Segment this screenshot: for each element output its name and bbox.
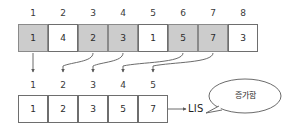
- lis-cell-1[interactable]: 1: [18, 95, 48, 123]
- callout-bubble-tail: [206, 106, 222, 113]
- mid-index-3: 3: [78, 80, 108, 90]
- lis-cell-5[interactable]: 7: [138, 95, 168, 123]
- map-arrow-7-to-5: [153, 53, 213, 72]
- lis-cell-4[interactable]: 5: [108, 95, 138, 123]
- top-index-1: 1: [18, 8, 48, 18]
- input-cell-8[interactable]: 3: [228, 24, 258, 52]
- lis-result-label: LIS: [188, 103, 203, 114]
- input-cell-5[interactable]: 1: [138, 24, 168, 52]
- lis-cell-3[interactable]: 3: [78, 95, 108, 123]
- mid-index-5: 5: [138, 80, 168, 90]
- top-index-8: 8: [228, 8, 258, 18]
- input-cell-6[interactable]: 5: [168, 24, 198, 52]
- top-index-7: 7: [198, 8, 228, 18]
- map-arrow-6-to-4: [123, 53, 183, 72]
- top-index-2: 2: [48, 8, 78, 18]
- map-arrow-4-to-3: [93, 53, 123, 72]
- mid-index-1: 1: [18, 80, 48, 90]
- input-cell-3[interactable]: 2: [78, 24, 108, 52]
- input-cell-7[interactable]: 7: [198, 24, 228, 52]
- lis-diagram: 1 2 3 4 5 6 7 8 1 4 2 3 1 5 7 3 1 2 3 4 …: [0, 0, 290, 135]
- map-arrow-3-to-2: [63, 53, 93, 72]
- top-index-3: 3: [78, 8, 108, 18]
- mid-index-2: 2: [48, 80, 78, 90]
- top-index-5: 5: [138, 8, 168, 18]
- mid-index-4: 4: [108, 80, 138, 90]
- top-index-6: 6: [168, 8, 198, 18]
- input-cell-1[interactable]: 1: [18, 24, 48, 52]
- input-cell-2[interactable]: 4: [48, 24, 78, 52]
- lis-cell-2[interactable]: 2: [48, 95, 78, 123]
- input-cell-4[interactable]: 3: [108, 24, 138, 52]
- callout-text: 증가함: [214, 91, 276, 101]
- top-index-4: 4: [108, 8, 138, 18]
